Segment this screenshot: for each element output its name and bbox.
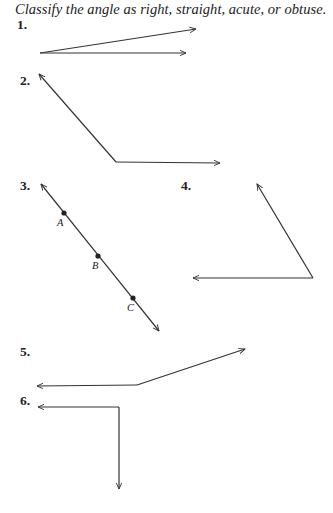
angle-6 <box>38 407 119 489</box>
point-c <box>130 295 135 300</box>
angle-figures: A B C <box>0 0 333 513</box>
angle-1 <box>40 29 196 53</box>
angle-4 <box>193 184 313 278</box>
angle-5 <box>37 349 245 386</box>
angle-2 <box>39 74 220 163</box>
point-a-label: A <box>56 217 64 228</box>
point-b <box>95 253 100 258</box>
point-b-label: B <box>92 260 99 271</box>
point-a <box>61 210 66 215</box>
point-c-label: C <box>127 302 135 313</box>
